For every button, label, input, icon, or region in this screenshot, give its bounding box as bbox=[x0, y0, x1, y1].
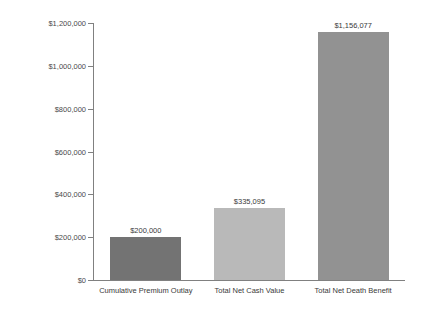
x-axis-category-label: Total Net Cash Value bbox=[200, 286, 299, 296]
y-axis-tick-label-wrap: $600,000 bbox=[0, 152, 86, 153]
y-axis-tick-label: $800,000 bbox=[55, 104, 86, 113]
x-axis-category-label: Cumulative Premium Outlay bbox=[96, 286, 195, 296]
y-axis-tick-label: $1,000,000 bbox=[48, 61, 86, 70]
y-axis-tick-label-wrap: $1,000,000 bbox=[0, 66, 86, 67]
bar bbox=[214, 208, 285, 280]
y-axis-tick-label: $400,000 bbox=[55, 190, 86, 199]
y-axis-tick-label-wrap: $0 bbox=[0, 280, 86, 281]
y-axis-tick-label: $600,000 bbox=[55, 147, 86, 156]
y-axis-tick-label-wrap: $800,000 bbox=[0, 109, 86, 110]
bar bbox=[110, 237, 181, 280]
bar-value-label: $335,095 bbox=[234, 197, 265, 206]
y-axis-tick-label-wrap: $400,000 bbox=[0, 194, 86, 195]
y-axis-tick-label-wrap: $200,000 bbox=[0, 237, 86, 238]
y-axis-line bbox=[93, 23, 94, 281]
y-axis-tick-label: $200,000 bbox=[55, 233, 86, 242]
bar-chart: $1,200,000$1,000,000$800,000$600,000$400… bbox=[0, 0, 428, 324]
bar-value-label: $1,156,077 bbox=[334, 21, 372, 30]
y-axis-tick-label: $1,200,000 bbox=[48, 19, 86, 28]
x-axis-category-label: Total Net Death Benefit bbox=[304, 286, 403, 296]
bar-value-label: $200,000 bbox=[130, 226, 161, 235]
y-axis-tick-label: $0 bbox=[78, 276, 86, 285]
x-axis-line bbox=[93, 280, 405, 281]
y-axis-tick-label-wrap: $1,200,000 bbox=[0, 23, 86, 24]
bar bbox=[318, 32, 389, 280]
